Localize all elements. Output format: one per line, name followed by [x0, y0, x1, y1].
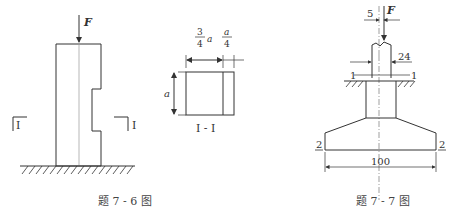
ground-hatch — [22, 166, 133, 174]
figure-7-7 — [315, 6, 446, 200]
section1-left: 1 — [350, 70, 356, 81]
column-outline — [372, 42, 391, 78]
base-width-dim: 100 — [371, 156, 390, 167]
caption-7-7: 题 7 - 7 图 — [356, 192, 410, 208]
section-mark-right — [114, 117, 128, 131]
frac2-den: 4 — [224, 39, 230, 49]
column-outline — [56, 44, 101, 166]
figures-canvas: F I I 3 4 a a 4 a I - I F 5 24 1 1 2 2 1… — [0, 0, 455, 214]
frac-var: a — [207, 34, 212, 44]
section2-left: 2 — [316, 139, 322, 150]
section-caption: I - I — [196, 122, 215, 135]
frac2-num: a — [224, 27, 229, 37]
offset-dim: 5 — [367, 8, 373, 19]
width-dim: 24 — [398, 51, 411, 62]
caption-7-6: 题 7 - 6 图 — [98, 192, 152, 208]
section-rect — [186, 72, 234, 115]
section2-right: 2 — [439, 139, 445, 150]
figure-7-6 — [13, 15, 135, 174]
section1-right: 1 — [411, 70, 417, 81]
section-view — [174, 37, 244, 115]
pedestal — [366, 81, 396, 118]
frac-num: 3 — [197, 27, 203, 37]
force-label-2: F — [386, 4, 396, 17]
frac-den: 4 — [197, 39, 203, 49]
force-label: F — [83, 16, 93, 29]
section-label-left: I — [16, 119, 20, 132]
dim-side-label: a — [164, 88, 170, 99]
footing — [325, 118, 436, 150]
section-label-right: I — [132, 119, 136, 132]
